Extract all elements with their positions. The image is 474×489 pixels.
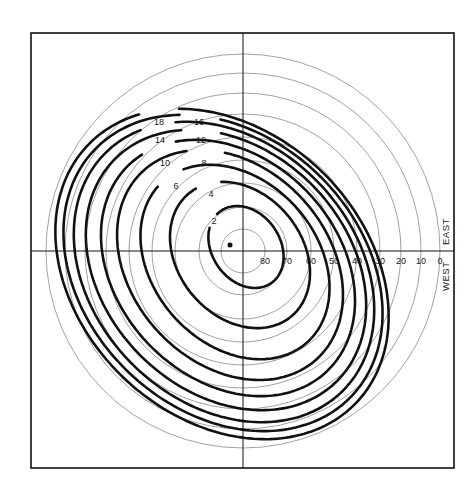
contour-label: 6 <box>173 181 178 191</box>
sun-point-marker <box>228 243 233 248</box>
altitude-label: 80 <box>260 256 270 266</box>
altitude-label: 50 <box>329 256 339 266</box>
contour-label: 10 <box>160 158 170 168</box>
contour-4 <box>170 182 310 328</box>
contour-diagram: 80706050403020100 24681012141618 EAST WE… <box>0 0 474 489</box>
contour-label: 16 <box>194 117 204 127</box>
altitude-label: 10 <box>416 256 426 266</box>
contour-label: 8 <box>201 158 206 168</box>
contour-label: 14 <box>155 135 165 145</box>
altitude-label: 20 <box>396 256 406 266</box>
altitude-labels: 80706050403020100 <box>260 256 443 266</box>
contour-6 <box>141 165 330 359</box>
east-label: EAST <box>440 218 451 245</box>
contour-label: 4 <box>208 189 213 199</box>
altitude-label: 30 <box>375 256 385 266</box>
altitude-label: 40 <box>352 256 362 266</box>
altitude-label: 60 <box>306 256 316 266</box>
west-label: WEST <box>440 262 451 291</box>
contour-curves <box>55 109 388 439</box>
contour-label: 12 <box>196 135 206 145</box>
altitude-label: 70 <box>282 256 292 266</box>
contour-label: 18 <box>154 117 164 127</box>
contour-label: 2 <box>211 216 216 226</box>
